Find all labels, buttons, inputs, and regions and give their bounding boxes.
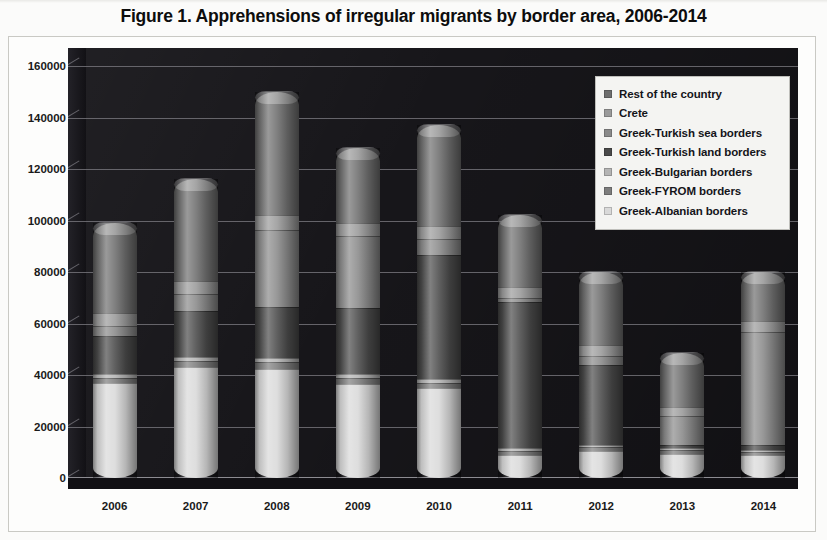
bar-segment bbox=[93, 223, 137, 313]
page-title: Figure 1. Apprehensions of irregular mig… bbox=[0, 6, 827, 27]
bar-2007[interactable] bbox=[174, 179, 218, 478]
x-axis-tick-label: 2007 bbox=[158, 500, 234, 512]
plot-floor bbox=[68, 477, 798, 489]
bar-segment bbox=[660, 454, 704, 478]
legend-item[interactable]: Greek-Turkish sea borders bbox=[604, 123, 781, 143]
legend-swatch-icon bbox=[604, 207, 612, 215]
legend-item[interactable]: Rest of the country bbox=[604, 84, 781, 104]
legend-swatch-icon bbox=[604, 148, 612, 156]
legend-label: Greek-Turkish land borders bbox=[619, 146, 766, 158]
y-axis-tick-label: 140000 bbox=[4, 112, 66, 124]
y-axis-tick-label: 20000 bbox=[4, 421, 66, 433]
legend-swatch-icon bbox=[604, 187, 612, 195]
bar-segment bbox=[174, 311, 218, 357]
bar-segment bbox=[93, 383, 137, 478]
x-axis-tick-label: 2014 bbox=[725, 500, 801, 512]
bar-segment bbox=[579, 365, 623, 445]
x-axis-tick-label: 2011 bbox=[482, 500, 558, 512]
bar-segment bbox=[498, 215, 542, 287]
bar-segment bbox=[93, 336, 137, 373]
bar-2012[interactable] bbox=[579, 272, 623, 478]
bar-segment bbox=[255, 369, 299, 478]
bar-segment bbox=[174, 281, 218, 294]
bar-segment bbox=[174, 294, 218, 311]
bar-segment bbox=[579, 451, 623, 478]
bar-segment bbox=[579, 345, 623, 355]
y-axis-tick-label: 160000 bbox=[4, 60, 66, 72]
bar-segment bbox=[579, 272, 623, 345]
bar-segment bbox=[417, 255, 461, 379]
legend-item[interactable]: Crete bbox=[604, 104, 781, 124]
legend-label: Crete bbox=[619, 107, 648, 119]
y-axis-tick-label: 0 bbox=[4, 472, 66, 484]
y-axis-tick-label: 60000 bbox=[4, 318, 66, 330]
y-axis-tick-label: 120000 bbox=[4, 163, 66, 175]
bar-segment bbox=[336, 236, 380, 308]
bar-segment bbox=[660, 407, 704, 416]
bar-2013[interactable] bbox=[660, 353, 704, 478]
x-axis-tick-label: 2006 bbox=[77, 500, 153, 512]
legend-label: Greek-Turkish sea borders bbox=[619, 127, 762, 139]
bar-segment bbox=[660, 416, 704, 444]
legend-item[interactable]: Greek-FYROM borders bbox=[604, 182, 781, 202]
figure-page: Figure 1. Apprehensions of irregular mig… bbox=[0, 0, 827, 540]
bar-segment bbox=[336, 384, 380, 478]
bar-2009[interactable] bbox=[336, 148, 380, 478]
bar-segment bbox=[174, 367, 218, 478]
bar-segment bbox=[741, 321, 785, 331]
bar-segment bbox=[498, 287, 542, 297]
legend-item[interactable]: Greek-Albanian borders bbox=[604, 201, 781, 221]
bar-segment bbox=[255, 307, 299, 359]
x-axis-tick-label: 2012 bbox=[563, 500, 639, 512]
legend-swatch-icon bbox=[604, 109, 612, 117]
chart-legend: Rest of the countryCreteGreek-Turkish se… bbox=[595, 76, 790, 230]
gridline bbox=[68, 66, 798, 67]
bar-segment bbox=[417, 226, 461, 239]
bar-segment bbox=[255, 362, 299, 368]
bar-segment bbox=[93, 313, 137, 326]
bar-segment bbox=[255, 215, 299, 229]
bar-segment bbox=[741, 272, 785, 321]
y-axis-tick-label: 40000 bbox=[4, 369, 66, 381]
legend-item[interactable]: Greek-Bulgarian borders bbox=[604, 162, 781, 182]
bar-segment bbox=[174, 179, 218, 281]
bar-segment bbox=[660, 353, 704, 407]
bar-segment bbox=[336, 308, 380, 374]
x-axis-tick-label: 2010 bbox=[401, 500, 477, 512]
bar-segment bbox=[93, 326, 137, 336]
bar-segment bbox=[336, 223, 380, 236]
y-axis: 0200004000060000800001000001200001400001… bbox=[0, 0, 66, 540]
legend-swatch-icon bbox=[604, 129, 612, 137]
bar-2011[interactable] bbox=[498, 215, 542, 478]
bar-2014[interactable] bbox=[741, 272, 785, 478]
bar-2008[interactable] bbox=[255, 92, 299, 478]
bar-segment bbox=[255, 230, 299, 307]
bar-2006[interactable] bbox=[93, 223, 137, 478]
bar-segment bbox=[498, 455, 542, 478]
bar-segment bbox=[336, 148, 380, 223]
legend-item[interactable]: Greek-Turkish land borders bbox=[604, 143, 781, 163]
legend-label: Greek-FYROM borders bbox=[619, 185, 741, 197]
bar-2010[interactable] bbox=[417, 125, 461, 478]
bar-segment bbox=[741, 332, 785, 445]
bar-segment bbox=[417, 388, 461, 478]
bar-segment bbox=[741, 455, 785, 478]
bar-segment bbox=[255, 92, 299, 216]
y-axis-tick-label: 100000 bbox=[4, 215, 66, 227]
x-axis-tick-label: 2009 bbox=[320, 500, 396, 512]
y-axis-tick-label: 80000 bbox=[4, 266, 66, 278]
x-axis-tick-label: 2013 bbox=[644, 500, 720, 512]
legend-swatch-icon bbox=[604, 168, 612, 176]
legend-swatch-icon bbox=[604, 90, 612, 98]
x-axis-tick-label: 2008 bbox=[239, 500, 315, 512]
legend-label: Rest of the country bbox=[619, 88, 722, 100]
legend-label: Greek-Bulgarian borders bbox=[619, 166, 752, 178]
bar-segment bbox=[579, 356, 623, 365]
bar-segment bbox=[417, 125, 461, 225]
bar-segment bbox=[417, 239, 461, 256]
bar-segment bbox=[498, 302, 542, 449]
bar-segment bbox=[93, 378, 137, 383]
legend-label: Greek-Albanian borders bbox=[619, 205, 748, 217]
